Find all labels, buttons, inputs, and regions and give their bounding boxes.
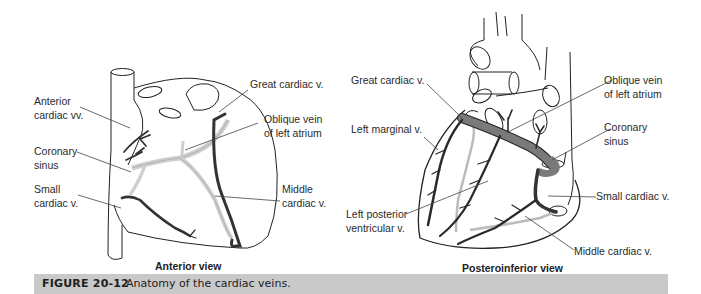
label-great-cardiac-vein-anterior: Great cardiac v.	[250, 78, 323, 91]
label-small-cardiac-vein-anterior-line2: cardiac v.	[34, 197, 78, 210]
label-anterior-cardiac-veins-line1: Anterior	[34, 95, 71, 108]
figure-cardiac-veins: Great cardiac v. Anterior cardiac vv. Ob…	[0, 0, 701, 294]
label-coronary-sinus-posterior-line1: Coronary	[604, 121, 647, 134]
anterior-leader-lines	[77, 90, 280, 208]
label-left-posterior-ventricular-vein-line1: Left posterior	[346, 208, 407, 221]
label-oblique-vein-posterior-line2: of left atrium	[604, 88, 662, 101]
label-left-marginal-vein: Left marginal v.	[351, 123, 422, 136]
label-coronary-sinus-anterior-line1: Coronary	[34, 145, 77, 158]
label-oblique-vein-anterior-line2: of left atrium	[264, 127, 322, 140]
label-oblique-vein-posterior-line1: Oblique vein	[604, 74, 662, 87]
posteroinferior-view-title: Posteroinferior view	[462, 262, 563, 274]
figure-caption-bar: FIGURE 20-12 Anatomy of the cardiac vein…	[34, 274, 668, 294]
label-small-cardiac-vein-posterior: Small cardiac v.	[596, 190, 669, 203]
label-anterior-cardiac-veins-line2: cardiac vv.	[34, 109, 83, 122]
figure-caption: Anatomy of the cardiac veins.	[126, 277, 291, 290]
anterior-heart-drawing	[108, 69, 277, 260]
label-coronary-sinus-posterior-line2: sinus	[604, 135, 629, 148]
label-middle-cardiac-vein-posterior: Middle cardiac v.	[574, 245, 652, 258]
figure-number: FIGURE 20-12	[42, 277, 129, 290]
label-great-cardiac-vein-posterior: Great cardiac v.	[351, 74, 424, 87]
label-middle-cardiac-vein-anterior-line2: cardiac v.	[282, 197, 326, 210]
label-middle-cardiac-vein-anterior-line1: Middle	[282, 183, 313, 196]
anterior-view-title: Anterior view	[155, 260, 222, 272]
label-coronary-sinus-anterior-line2: sinus	[34, 159, 59, 172]
label-left-posterior-ventricular-vein-line2: ventricular v.	[346, 222, 405, 235]
label-oblique-vein-anterior-line1: Oblique vein	[264, 113, 322, 126]
label-small-cardiac-vein-anterior-line1: Small	[34, 183, 60, 196]
